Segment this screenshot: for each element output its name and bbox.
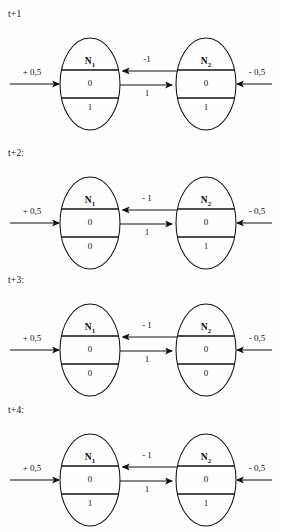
edge-label-bottom: 1 xyxy=(128,354,166,364)
edge-label-bottom: 1 xyxy=(128,88,166,98)
timestep-block: t+1N1N20101-11+ 0,5- 0,5 xyxy=(0,4,282,139)
input-label-right: - 0,5 xyxy=(234,463,280,473)
input-label-left: + 0,5 xyxy=(8,67,56,77)
node2-mid-value: 0 xyxy=(186,217,226,227)
node-title-n1-letter: N xyxy=(85,56,92,66)
node-title-n2-index: 2 xyxy=(208,61,212,69)
input-label-right: - 0,5 xyxy=(234,333,280,343)
node2-bottom-value: 1 xyxy=(186,241,226,251)
node2-bottom-value: 1 xyxy=(186,102,226,112)
node-title-n1-letter: N xyxy=(85,452,92,462)
node-title-n2-letter: N xyxy=(201,195,208,205)
node-title-n1: N1 xyxy=(70,56,110,69)
input-label-right: - 0,5 xyxy=(234,67,280,77)
node2-mid-value: 0 xyxy=(186,474,226,484)
input-label-left: + 0,5 xyxy=(8,206,56,216)
input-label-left: + 0,5 xyxy=(8,333,56,343)
node-title-n1-index: 1 xyxy=(92,61,96,69)
input-label-left: + 0,5 xyxy=(8,463,56,473)
node-title-n1-letter: N xyxy=(85,322,92,332)
node-title-n2: N2 xyxy=(186,322,226,335)
node-title-n2: N2 xyxy=(186,195,226,208)
edge-label-bottom: 1 xyxy=(128,484,166,494)
timestep-block: t+2:N1N20001- 11+ 0,5- 0,5 xyxy=(0,143,282,278)
edge-label-top: - 1 xyxy=(128,450,166,460)
node-title-n1: N1 xyxy=(70,195,110,208)
node-title-n2-index: 2 xyxy=(208,327,212,335)
node-title-n1: N1 xyxy=(70,452,110,465)
node-title-n1-letter: N xyxy=(85,195,92,205)
edge-label-top: -1 xyxy=(128,54,166,64)
node-title-n2-index: 2 xyxy=(208,200,212,208)
node-title-n2-letter: N xyxy=(201,452,208,462)
node-title-n1-index: 1 xyxy=(92,200,96,208)
diagram-page: t+1N1N20101-11+ 0,5- 0,5t+2:N1N20001- 11… xyxy=(0,0,282,532)
input-label-right: - 0,5 xyxy=(234,206,280,216)
node1-mid-value: 0 xyxy=(70,78,110,88)
node-title-n1-index: 1 xyxy=(92,327,96,335)
node1-bottom-value: 0 xyxy=(70,368,110,378)
node1-mid-value: 0 xyxy=(70,344,110,354)
node1-bottom-value: 1 xyxy=(70,498,110,508)
node-title-n2: N2 xyxy=(186,452,226,465)
timestep-block: t+4:N1N20101- 11+ 0,5- 0,5 xyxy=(0,400,282,532)
node-title-n2-index: 2 xyxy=(208,457,212,465)
node2-mid-value: 0 xyxy=(186,78,226,88)
node1-mid-value: 0 xyxy=(70,217,110,227)
timestep-block: t+3:N1N20000- 11+ 0,5- 0,5 xyxy=(0,270,282,405)
node-title-n2-letter: N xyxy=(201,56,208,66)
node2-bottom-value: 0 xyxy=(186,368,226,378)
node-title-n2: N2 xyxy=(186,56,226,69)
node-title-n2-letter: N xyxy=(201,322,208,332)
edge-label-bottom: 1 xyxy=(128,227,166,237)
node-title-n1: N1 xyxy=(70,322,110,335)
edge-label-top: - 1 xyxy=(128,193,166,203)
edge-label-top: - 1 xyxy=(128,320,166,330)
node1-bottom-value: 1 xyxy=(70,102,110,112)
node2-mid-value: 0 xyxy=(186,344,226,354)
node-title-n1-index: 1 xyxy=(92,457,96,465)
node2-bottom-value: 1 xyxy=(186,498,226,508)
node1-mid-value: 0 xyxy=(70,474,110,484)
node1-bottom-value: 0 xyxy=(70,241,110,251)
